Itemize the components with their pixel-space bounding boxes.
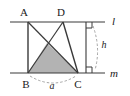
vertex-label-a: A: [20, 6, 28, 18]
geometry-figure: A D B C l m h a: [0, 0, 130, 96]
right-angle-bottom-icon: [86, 67, 92, 73]
line-label-l: l: [112, 15, 115, 27]
vertex-label-c: C: [74, 78, 81, 90]
vertex-label-b: B: [22, 78, 29, 90]
vertex-label-d: D: [57, 6, 65, 18]
geometry-diagram-canvas: A D B C l m h a: [0, 0, 130, 96]
line-label-m: m: [110, 67, 118, 79]
base-label-a: a: [50, 80, 55, 91]
height-label-h: h: [102, 39, 107, 50]
height-brace-arc: [93, 26, 98, 70]
right-angle-top-icon: [86, 22, 92, 28]
